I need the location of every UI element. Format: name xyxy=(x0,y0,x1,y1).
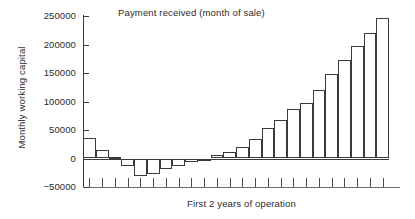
plot-area xyxy=(83,10,400,188)
x-axis-tick-mark xyxy=(230,178,231,187)
bar xyxy=(287,109,300,159)
x-axis-tick-mark xyxy=(128,178,129,187)
y-axis-tick-mark xyxy=(84,73,89,74)
bar xyxy=(147,159,160,175)
y-axis-tick-label: 50000 xyxy=(18,124,76,135)
chart-title: Payment received (month of sale) xyxy=(118,7,265,18)
bar xyxy=(338,60,351,158)
bar xyxy=(160,159,173,169)
y-axis-tick-mark xyxy=(84,159,89,160)
x-axis-tick-mark xyxy=(115,178,116,187)
y-axis-tick-mark xyxy=(84,45,89,46)
bar xyxy=(121,159,134,167)
x-axis-tick-mark xyxy=(293,178,294,187)
x-axis-tick-mark xyxy=(255,178,256,187)
bar xyxy=(313,90,326,158)
y-axis-tick-mark xyxy=(84,130,89,131)
x-axis-tick-mark xyxy=(281,178,282,187)
x-axis-tick-mark xyxy=(357,178,358,187)
x-axis-tick-mark xyxy=(166,178,167,187)
x-axis-tick-mark xyxy=(370,178,371,187)
y-axis-tick-labels: 250000200000150000100000500000−50000 xyxy=(16,0,76,219)
x-axis-tick-mark xyxy=(217,178,218,187)
x-axis-tick-mark xyxy=(191,178,192,187)
bar xyxy=(300,103,313,159)
bar xyxy=(172,159,185,166)
y-axis-tick-mark xyxy=(84,16,89,17)
y-axis-tick-label: 150000 xyxy=(18,67,76,78)
bar xyxy=(236,147,249,158)
bar xyxy=(274,120,287,159)
x-axis-tick-mark xyxy=(332,178,333,187)
x-axis-tick-mark xyxy=(306,178,307,187)
bar xyxy=(109,157,122,159)
bar xyxy=(96,150,109,159)
bar xyxy=(364,33,377,159)
x-axis-title: First 2 years of operation xyxy=(83,198,400,209)
y-axis-tick-label: 0 xyxy=(18,153,76,164)
x-axis-tick-mark xyxy=(89,178,90,187)
bar xyxy=(185,159,198,163)
y-axis-tick-label: −50000 xyxy=(18,181,76,192)
bar xyxy=(198,159,211,161)
bar xyxy=(249,139,262,158)
bar xyxy=(134,159,147,177)
y-axis-tick-label: 100000 xyxy=(18,96,76,107)
bar xyxy=(262,128,275,159)
bar xyxy=(325,74,338,158)
x-axis-tick-mark xyxy=(153,178,154,187)
bar xyxy=(211,155,224,158)
y-axis-tick-label: 200000 xyxy=(18,39,76,50)
x-axis-tick-mark xyxy=(179,178,180,187)
x-axis-tick-mark xyxy=(383,178,384,187)
x-axis-tick-mark xyxy=(102,178,103,187)
bar-chart: Monthly working capital 2500002000001500… xyxy=(0,0,415,219)
x-axis-tick-mark xyxy=(204,178,205,187)
y-axis-tick-mark xyxy=(84,187,89,188)
x-axis-tick-mark xyxy=(344,178,345,187)
x-axis-tick-mark xyxy=(268,178,269,187)
x-axis-tick-mark xyxy=(140,178,141,187)
y-axis-tick-mark xyxy=(84,102,89,103)
y-axis-tick-label: 250000 xyxy=(18,10,76,21)
bar xyxy=(83,138,96,159)
bar xyxy=(376,18,389,158)
x-axis-tick-mark xyxy=(242,178,243,187)
bar xyxy=(351,46,364,158)
bar xyxy=(223,152,236,158)
x-axis-tick-mark xyxy=(319,178,320,187)
